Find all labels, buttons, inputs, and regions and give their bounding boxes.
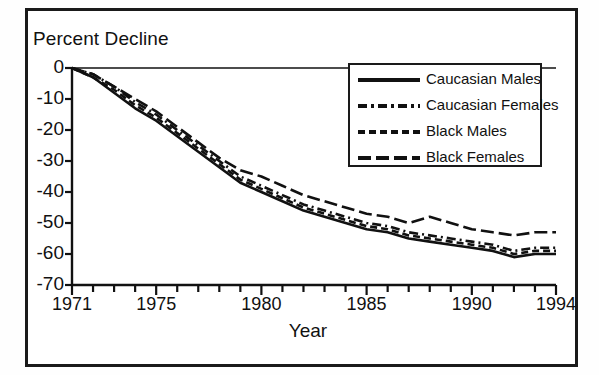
chart-legend: Caucasian Males Caucasian Females Black … <box>348 63 542 167</box>
chart-plot-area <box>0 0 599 375</box>
x-axis-title: Year <box>248 320 368 342</box>
legend-label: Caucasian Females <box>426 96 559 113</box>
legend-label: Caucasian Males <box>426 70 541 87</box>
y-tick-label: -50 <box>18 211 64 233</box>
x-tick-label: 1975 <box>121 294 191 315</box>
y-tick-label: -30 <box>18 149 64 171</box>
legend-swatch-black-females <box>358 156 420 160</box>
legend-swatch-caucasian-males <box>358 78 420 82</box>
y-tick-label: -70 <box>18 273 64 295</box>
legend-swatch-caucasian-females <box>358 104 420 108</box>
figure-container: Percent Decline 0-10-20-30-40-50-60-70 1… <box>0 0 599 375</box>
legend-item: Black Females <box>350 145 540 169</box>
legend-item: Caucasian Females <box>350 93 540 117</box>
y-tick-label: -10 <box>18 87 64 109</box>
y-tick-label: -40 <box>18 180 64 202</box>
y-tick-label: -60 <box>18 242 64 264</box>
y-tick-label: -20 <box>18 118 64 140</box>
x-tick-label: 1990 <box>437 294 507 315</box>
y-tick-label: 0 <box>18 56 64 78</box>
legend-label: Black Females <box>426 148 524 165</box>
legend-item: Black Males <box>350 119 540 143</box>
legend-item: Caucasian Males <box>350 67 540 91</box>
legend-label: Black Males <box>426 122 507 139</box>
x-tick-label: 1994 <box>521 294 591 315</box>
x-tick-label: 1980 <box>226 294 296 315</box>
legend-swatch-black-males <box>358 130 420 134</box>
x-tick-label: 1985 <box>332 294 402 315</box>
x-tick-label: 1971 <box>37 294 107 315</box>
